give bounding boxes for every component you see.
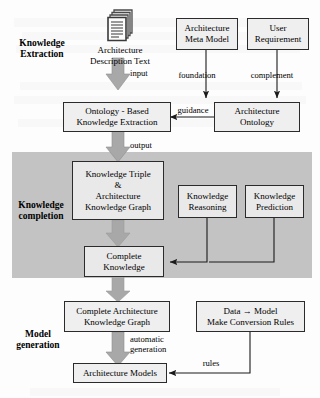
node-knowledge-reasoning[interactable]: Knowledge Reasoning <box>178 185 237 218</box>
node-arch-desc-text-label: Architecture Description Text <box>68 45 172 67</box>
diagram-canvas: Knowledge Extraction Knowledge completio… <box>0 0 320 398</box>
edge-label-complement: complement <box>240 70 304 80</box>
node-knowledge-triple-architecture-knowledge-graph[interactable]: Knowledge Triple & Architecture Knowledg… <box>72 161 164 220</box>
phase-label-knowledge-completion: Knowledge completion <box>6 200 76 222</box>
node-complete-architecture-knowledge-graph[interactable]: Complete Architecture Knowledge Graph <box>64 301 170 332</box>
phase-label-model-generation: Model generation <box>8 329 68 351</box>
node-architecture-ontology-label: Architecture Ontology <box>217 106 297 128</box>
node-conversion-rules[interactable]: Data → Model Make Conversion Rules <box>196 301 305 332</box>
edge-complete-to-ckg-arrow <box>106 275 130 302</box>
node-architecture-ontology[interactable]: Architecture Ontology <box>214 102 300 132</box>
edge-output-arrow <box>106 131 130 162</box>
edge-label-automatic-generation: automatic generation <box>130 334 190 354</box>
node-ontology-based-knowledge-extraction[interactable]: Ontology - Based Knowledge Extraction <box>63 102 171 132</box>
phase-label-knowledge-extraction: Knowledge Extraction <box>8 38 76 60</box>
node-architecture-models-label: Architecture Models <box>76 368 164 379</box>
edge-label-guidance: guidance <box>170 105 216 115</box>
edge-label-output: output <box>130 140 166 150</box>
node-conversion-rules-label: Data → Model Make Conversion Rules <box>199 306 302 328</box>
node-complete-knowledge-label: Complete Knowledge <box>87 251 161 273</box>
edge-label-foundation: foundation <box>168 70 226 80</box>
edge-reasoning-to-complete-arrow <box>170 218 207 262</box>
node-complete-knowledge[interactable]: Complete Knowledge <box>84 246 164 277</box>
node-user-requirement[interactable]: User Requirement <box>247 18 309 50</box>
documents-stack-icon <box>101 7 139 45</box>
edge-automatic-generation-arrow <box>106 332 130 366</box>
node-architecture-meta-model[interactable]: Architecture Meta Model <box>176 18 238 50</box>
node-ontology-based-knowledge-extraction-label: Ontology - Based Knowledge Extraction <box>66 106 168 128</box>
node-knowledge-triple-architecture-knowledge-graph-label: Knowledge Triple & Architecture Knowledg… <box>75 169 161 213</box>
node-knowledge-prediction[interactable]: Knowledge Prediction <box>245 185 304 218</box>
edge-prediction-to-complete-arrow <box>209 218 274 262</box>
edge-label-input: input <box>130 68 164 78</box>
node-architecture-meta-model-label: Architecture Meta Model <box>179 23 235 45</box>
node-knowledge-reasoning-label: Knowledge Reasoning <box>181 191 234 213</box>
node-architecture-models[interactable]: Architecture Models <box>73 363 167 383</box>
node-user-requirement-label: User Requirement <box>250 23 306 45</box>
node-complete-architecture-knowledge-graph-label: Complete Architecture Knowledge Graph <box>67 306 167 328</box>
node-knowledge-prediction-label: Knowledge Prediction <box>248 191 301 213</box>
edge-triple-to-complete-arrow <box>106 220 130 247</box>
edge-label-rules: rules <box>194 358 228 368</box>
